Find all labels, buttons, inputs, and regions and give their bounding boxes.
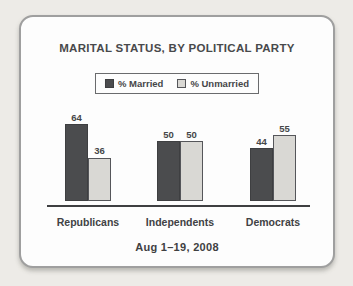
bar [157, 141, 180, 201]
bar-value-label: 50 [163, 130, 174, 140]
category-label-republicans: Republicans [38, 216, 138, 228]
bar [88, 158, 111, 201]
bar-wrap: 55 [273, 124, 296, 202]
bar-wrap: 50 [157, 130, 180, 202]
date-caption: Aug 1–19, 2008 [21, 241, 333, 253]
bar [273, 135, 296, 201]
chart-card: MARITAL STATUS, BY POLITICAL PARTY % Mar… [19, 15, 335, 268]
category-label-independents: Independents [130, 216, 230, 228]
bar [65, 124, 88, 201]
bar-value-label: 36 [94, 146, 105, 156]
bar-value-label: 44 [256, 137, 267, 147]
bar-value-label: 55 [279, 124, 290, 134]
bar-wrap: 64 [65, 113, 88, 201]
bar-value-label: 50 [186, 130, 197, 140]
bar-group-democrats: 4455 [250, 124, 296, 202]
bar-group-independents: 5050 [157, 130, 203, 202]
bar-wrap: 44 [250, 137, 273, 201]
bar-wrap: 50 [180, 130, 203, 202]
x-axis-line [47, 205, 310, 207]
category-label-democrats: Democrats [223, 216, 323, 228]
bar [250, 148, 273, 201]
bar-chart: 643650504455 RepublicansIndependentsDemo… [21, 17, 333, 266]
bar-wrap: 36 [88, 146, 111, 201]
page-background: MARITAL STATUS, BY POLITICAL PARTY % Mar… [0, 0, 353, 286]
bar [180, 141, 203, 201]
bar-value-label: 64 [71, 113, 82, 123]
bar-group-republicans: 6436 [65, 113, 111, 201]
